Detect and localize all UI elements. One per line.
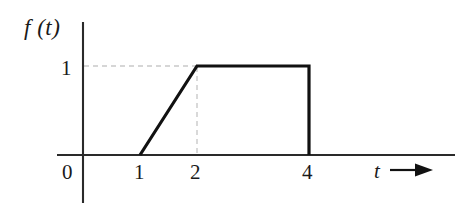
y-tick-label-1: 1 — [61, 58, 72, 79]
x-axis-title: t — [374, 161, 380, 182]
x-tick-label-0: 0 — [62, 162, 73, 183]
y-axis-title: f (t) — [24, 16, 60, 39]
x-axis-direction-arrow-icon — [390, 164, 433, 177]
x-tick-label-1: 1 — [134, 162, 145, 183]
x-tick-label-2: 2 — [190, 162, 201, 183]
function-graph-figure: f (t) 1 0 1 2 4 t — [0, 0, 476, 208]
x-tick-label-4: 4 — [302, 162, 313, 183]
function-curve — [140, 66, 309, 155]
